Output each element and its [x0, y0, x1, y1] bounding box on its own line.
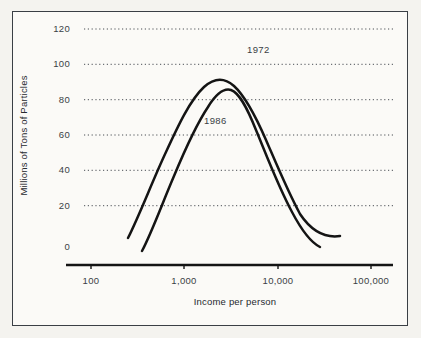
y-tick-label-40: 40	[30, 164, 70, 175]
x-tick-label-1000: 1,000	[149, 275, 219, 286]
x-tick-label-100: 100	[56, 275, 126, 286]
x-axis-title: Income per person	[100, 296, 370, 307]
y-tick-label-120: 120	[30, 23, 70, 34]
chart-page: 120 100 80 60 40 20 0 100 1,000 10,000 1…	[0, 0, 421, 338]
x-tick-label-10000: 10,000	[243, 275, 313, 286]
y-tick-label-60: 60	[30, 129, 70, 140]
series-annotation-1986: 1986	[204, 115, 227, 126]
gridlines	[84, 29, 393, 206]
series-annotation-1972: 1972	[247, 44, 270, 55]
y-tick-label-100: 100	[30, 58, 70, 69]
chart-plot-area: 120 100 80 60 40 20 0 100 1,000 10,000 1…	[0, 0, 421, 338]
y-axis-title: Millions of Tons of Particles	[18, 61, 29, 211]
y-tick-label-0: 0	[30, 241, 70, 252]
y-tick-label-80: 80	[30, 94, 70, 105]
series-curve-1972	[128, 80, 340, 238]
x-tick-label-100000: 100,000	[336, 275, 406, 286]
y-tick-label-20: 20	[30, 200, 70, 211]
